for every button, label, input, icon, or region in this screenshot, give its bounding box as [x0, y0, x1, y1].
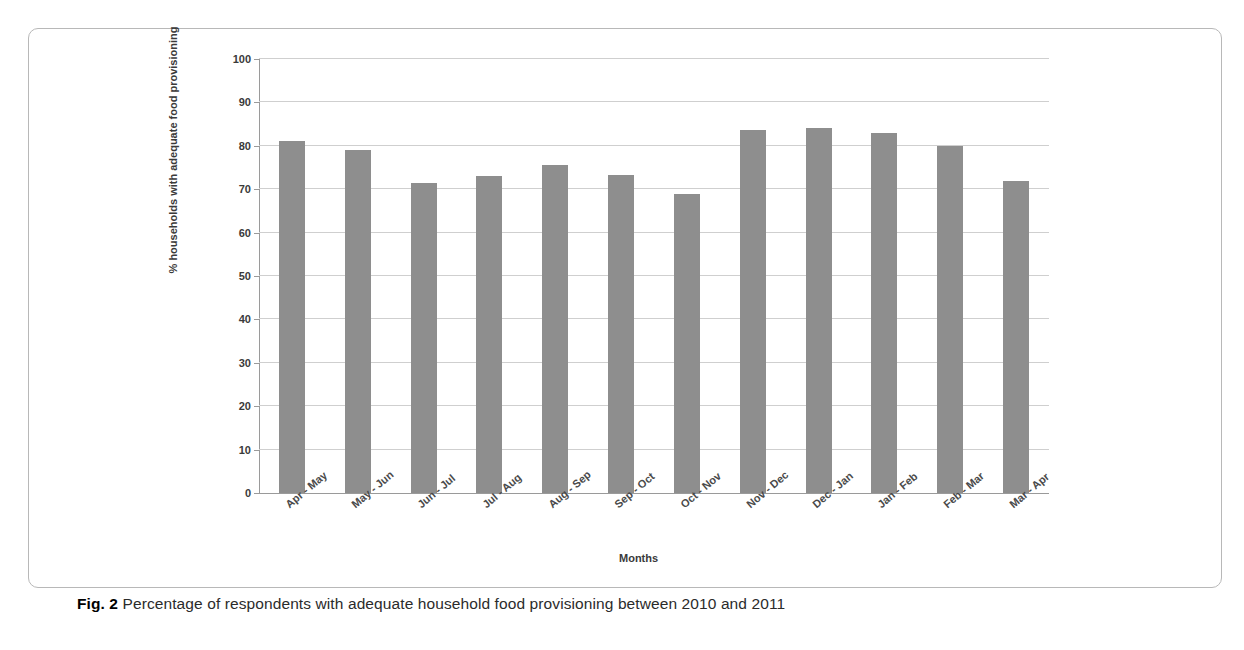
bar: [476, 176, 502, 493]
y-axis-tick-label: 0: [211, 487, 251, 499]
x-axis-line: [259, 493, 1049, 494]
gridline: [259, 449, 1049, 450]
y-axis-tick-label: 20: [211, 400, 251, 412]
caption-text: Percentage of respondents with adequate …: [123, 595, 786, 612]
gridline: [259, 101, 1049, 102]
figure-frame: 0102030405060708090100 % households with…: [28, 28, 1222, 588]
bar-chart: 0102030405060708090100 % households with…: [29, 29, 1223, 589]
gridline: [259, 232, 1049, 233]
figure-caption: Fig. 2 Percentage of respondents with ad…: [77, 595, 785, 613]
bar: [871, 133, 897, 493]
plot-area: [259, 59, 1049, 493]
gridline: [259, 362, 1049, 363]
bar: [740, 130, 766, 493]
y-axis-tick-label: 80: [211, 140, 251, 152]
y-axis-ticks: 0102030405060708090100: [207, 59, 251, 493]
y-axis-tick-label: 100: [211, 53, 251, 65]
y-axis-tick-label: 40: [211, 313, 251, 325]
x-axis-title: Months: [619, 552, 658, 564]
bar: [345, 150, 371, 493]
bar: [542, 165, 568, 493]
y-axis-tick-label: 50: [211, 270, 251, 282]
gridline: [259, 145, 1049, 146]
gridline: [259, 275, 1049, 276]
y-axis-tick-label: 10: [211, 444, 251, 456]
bar: [1003, 181, 1029, 493]
bar: [608, 175, 634, 493]
y-axis-tick-label: 90: [211, 96, 251, 108]
bar: [937, 146, 963, 493]
caption-label: Fig. 2: [77, 595, 118, 612]
y-axis-tick-label: 70: [211, 183, 251, 195]
gridline: [259, 405, 1049, 406]
gridline: [259, 318, 1049, 319]
bar: [411, 183, 437, 493]
bar: [279, 141, 305, 493]
gridline: [259, 188, 1049, 189]
bar: [674, 194, 700, 493]
bar: [806, 128, 832, 493]
y-axis-title: % households with adequate food provisio…: [167, 0, 179, 310]
gridline: [259, 58, 1049, 59]
y-axis-tick-label: 60: [211, 227, 251, 239]
y-axis-tick-label: 30: [211, 357, 251, 369]
